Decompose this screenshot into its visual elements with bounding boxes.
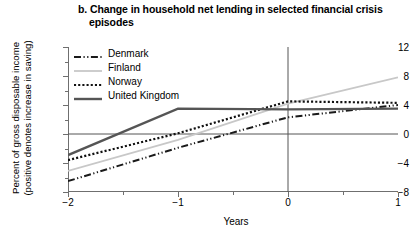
y-tick-label: −4 bbox=[398, 158, 409, 169]
y-tick-label: 8 bbox=[403, 71, 409, 82]
legend-label: Norway bbox=[108, 76, 142, 87]
legend-item-united-kingdom: United Kingdom bbox=[74, 88, 179, 102]
chart-legend: DenmarkFinlandNorwayUnited Kingdom bbox=[74, 46, 179, 102]
y-axis-title: Percent of gross disposable income (posi… bbox=[10, 23, 34, 213]
chart-title-line-1: b. Change in household net lending in se… bbox=[78, 3, 383, 15]
legend-swatch-icon bbox=[74, 62, 102, 72]
x-tick-label: −1 bbox=[172, 197, 183, 208]
x-tick-label: 1 bbox=[395, 197, 401, 208]
chart-figure: b. Change in household net lending in se… bbox=[0, 0, 414, 245]
x-axis-title: Years bbox=[0, 216, 414, 227]
x-tick-mark-minor bbox=[123, 192, 124, 195]
x-tick-label: 0 bbox=[285, 197, 291, 208]
legend-swatch-icon bbox=[74, 90, 102, 100]
y-tick-label: 12 bbox=[398, 42, 409, 53]
chart-title: b. Change in household net lending in se… bbox=[78, 3, 396, 28]
legend-label: United Kingdom bbox=[108, 90, 179, 101]
legend-item-norway: Norway bbox=[74, 74, 179, 88]
x-tick-mark-minor bbox=[233, 192, 234, 195]
y-axis-title-line-2: (positive denotes increase in saving) bbox=[22, 40, 33, 195]
legend-label: Finland bbox=[108, 62, 141, 73]
legend-item-denmark: Denmark bbox=[74, 46, 179, 60]
legend-swatch-icon bbox=[74, 76, 102, 86]
series-line-denmark bbox=[68, 105, 398, 181]
y-tick-label: −8 bbox=[398, 187, 409, 198]
x-tick-label: −2 bbox=[62, 197, 73, 208]
x-tick-mark-minor bbox=[343, 192, 344, 195]
legend-swatch-icon bbox=[74, 48, 102, 58]
y-tick-label: 4 bbox=[403, 100, 409, 111]
legend-label: Denmark bbox=[108, 48, 149, 59]
chart-title-line-2: episodes bbox=[78, 16, 396, 29]
y-axis-title-line-1: Percent of gross disposable income bbox=[10, 42, 21, 194]
legend-item-finland: Finland bbox=[74, 60, 179, 74]
y-tick-label: 0 bbox=[403, 129, 409, 140]
